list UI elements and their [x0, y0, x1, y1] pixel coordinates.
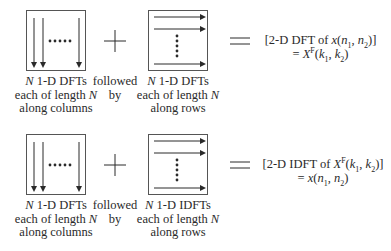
result-forward: [2-D DFT of x(n1, n2)] = XF(k1, k2) — [258, 34, 383, 61]
plus-icon — [104, 154, 126, 176]
caption-line1: N 1-D DFTs — [128, 75, 228, 89]
result-line2: = x(n1, n2) — [258, 172, 388, 186]
result-line1: [2-D DFT of x(n1, n2)] — [258, 34, 383, 48]
result-inverse: [2-D IDFT of XF(k1, k2)] = x(n1, n2) — [258, 158, 388, 185]
caption-line3: along columns — [6, 102, 106, 116]
caption-line3: along rows — [128, 226, 228, 240]
plus-icon — [104, 30, 126, 52]
column-dft-box — [26, 134, 86, 195]
row-dft-box — [148, 10, 208, 71]
row-idft-box — [148, 134, 208, 195]
result-line1: [2-D IDFT of XF(k1, k2)] — [258, 158, 388, 172]
equals-icon — [230, 37, 250, 45]
column-arrows-icon — [27, 135, 87, 196]
caption-line3: along rows — [128, 102, 228, 116]
step2-caption: N 1-D IDFTs each of length N along rows — [128, 199, 228, 240]
column-dft-box — [26, 10, 86, 71]
equals-icon — [230, 161, 250, 169]
result-line2: = XF(k1, k2) — [258, 48, 383, 62]
row-arrows-icon — [149, 11, 209, 72]
caption-line2: each of length N — [128, 213, 228, 227]
caption-line1: N 1-D IDFTs — [128, 199, 228, 213]
step2-caption: N 1-D DFTs each of length N along rows — [128, 75, 228, 116]
caption-line3: along columns — [6, 226, 106, 240]
caption-line2: each of length N — [128, 89, 228, 103]
column-arrows-icon — [27, 11, 87, 72]
row-arrows-icon — [149, 135, 209, 196]
